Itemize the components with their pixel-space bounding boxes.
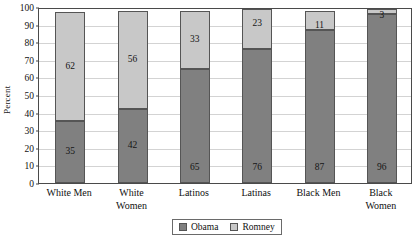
y-axis-tick-labels: 0102030405060708090100 <box>12 8 36 184</box>
bar-segment-obama[interactable]: 96 <box>367 14 397 183</box>
bar-value-label: 76 <box>252 163 262 173</box>
y-tick-label-40: 40 <box>25 109 35 119</box>
x-axis-category-labels: White MenWhiteWomenLatinosLatinasBlack M… <box>38 186 412 222</box>
x-category-label-line: Women <box>100 199 162 212</box>
x-category-label-line: Black <box>350 186 412 199</box>
bar-segment-romney[interactable]: 3 <box>367 9 397 14</box>
bar-group[interactable]: 3562 <box>55 7 85 183</box>
bar-group[interactable]: 7623 <box>242 7 272 183</box>
x-category-label: WhiteWomen <box>100 186 162 212</box>
x-category-label: Black Men <box>287 186 349 199</box>
bar-segment-romney[interactable]: 33 <box>180 11 210 69</box>
bar-segment-romney[interactable]: 56 <box>118 11 148 110</box>
legend-item-romney[interactable]: Romney <box>230 222 274 232</box>
bar-value-label: 56 <box>128 55 138 65</box>
chart-screenshot: Percent 0102030405060708090100 356242566… <box>0 0 417 247</box>
gridline-20 <box>39 149 411 150</box>
y-tick-label-0: 0 <box>29 179 34 189</box>
x-category-label: White Men <box>38 186 100 199</box>
bar-value-label: 96 <box>377 163 387 173</box>
gridline-80 <box>39 43 411 44</box>
y-tick-label-30: 30 <box>25 126 35 136</box>
legend-swatch-obama <box>179 223 187 231</box>
x-category-label: BlackWomen <box>350 186 412 212</box>
bar-segment-obama[interactable]: 65 <box>180 69 210 183</box>
bar-group[interactable]: 963 <box>367 7 397 183</box>
bar-value-label: 42 <box>128 141 138 151</box>
y-tick-label-10: 10 <box>25 161 35 171</box>
bar-value-label: 23 <box>252 19 262 29</box>
gridline-10 <box>39 166 411 167</box>
x-category-label: Latinas <box>225 186 287 199</box>
bar-value-label: 65 <box>190 163 200 173</box>
x-category-label-line: Latinos <box>163 186 225 199</box>
y-tick-label-80: 80 <box>25 38 35 48</box>
y-tick-label-60: 60 <box>25 73 35 83</box>
legend-label: Obama <box>191 222 218 232</box>
bar-segment-obama[interactable]: 87 <box>305 30 335 183</box>
bar-group[interactable]: 6533 <box>180 7 210 183</box>
bar-value-label: 11 <box>315 21 324 31</box>
x-category-label: Latinos <box>163 186 225 199</box>
gridline-40 <box>39 114 411 115</box>
bar-group[interactable]: 4256 <box>118 7 148 183</box>
bar-value-label: 35 <box>65 147 75 157</box>
y-tick-label-70: 70 <box>25 56 35 66</box>
y-tick-label-20: 20 <box>25 144 35 154</box>
bar-value-label: 3 <box>379 11 384 21</box>
bar-segment-romney[interactable]: 62 <box>55 12 85 121</box>
y-tick-label-90: 90 <box>25 21 35 31</box>
y-tick-label-50: 50 <box>25 91 35 101</box>
gridline-30 <box>39 131 411 132</box>
bar-value-label: 87 <box>315 163 325 173</box>
x-category-label-line: Latinas <box>225 186 287 199</box>
legend-item-obama[interactable]: Obama <box>179 222 218 232</box>
bar-group[interactable]: 8711 <box>305 7 335 183</box>
gridline-60 <box>39 78 411 79</box>
bar-segment-romney[interactable]: 23 <box>242 9 272 49</box>
gridline-70 <box>39 61 411 62</box>
gridline-50 <box>39 96 411 97</box>
x-category-label-line: White Men <box>38 186 100 199</box>
plot-area: 35624256653376238711963 <box>38 8 412 184</box>
x-category-label-line: White <box>100 186 162 199</box>
y-tick-label-100: 100 <box>20 3 34 13</box>
x-category-label-line: Black Men <box>287 186 349 199</box>
bar-segment-obama[interactable]: 76 <box>242 49 272 183</box>
legend-swatch-romney <box>230 223 238 231</box>
bar-segment-romney[interactable]: 11 <box>305 11 335 30</box>
x-category-label-line: Women <box>350 199 412 212</box>
bar-value-label: 62 <box>65 62 75 72</box>
legend-label: Romney <box>242 222 274 232</box>
bar-segment-obama[interactable]: 42 <box>118 109 148 183</box>
bar-value-label: 33 <box>190 35 200 45</box>
gridline-90 <box>39 26 411 27</box>
chart-legend: ObamaRomney <box>172 219 282 235</box>
bar-segment-obama[interactable]: 35 <box>55 121 85 183</box>
